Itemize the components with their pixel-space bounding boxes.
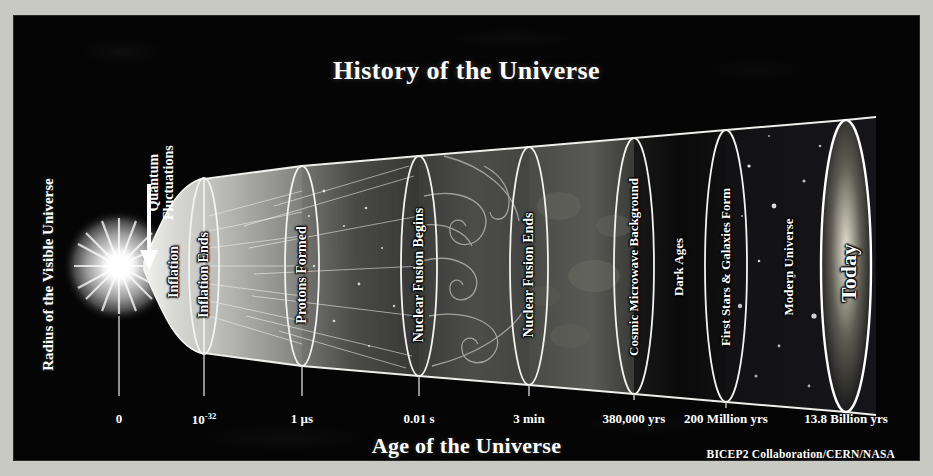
era-label-first-stars-galaxies-form: First Stars & Galaxies Form [718,142,734,392]
era-label-inflation: Inflation [166,202,182,342]
page-title: History of the Universe [14,56,919,86]
era-label-modern-universe: Modern Universe [781,192,797,342]
tick-label-200million: 200 Million yrs [684,411,768,427]
tick-label-0: 0 [116,411,123,427]
history-of-the-universe-figure: History of the Universe Age of the Unive… [0,0,933,476]
tick-label-001s: 0.01 s [403,411,434,427]
era-label-nuclear-fusion-begins: Nuclear Fusion Begins [411,165,427,385]
era-label-dark-ages: Dark Ages [671,214,687,320]
era-label-inflation-ends: Inflation Ends [196,195,212,355]
era-label-protons-formed: Protons Formed [294,185,310,365]
tick-label-1us: 1 µs [291,411,313,427]
down-arrow-icon [134,184,164,272]
tick-label-1e-32: 10-32 [192,411,216,428]
y-axis-title: Radius of the Visible Universe [40,145,57,405]
era-label-cosmic-microwave-background: Cosmic Microwave Background [626,132,642,402]
tick-label-138billion: 13.8 Billion yrs [804,411,887,427]
credit-line: BICEP2 Collaboration/CERN/NASA [707,448,895,460]
era-label-today: Today [836,223,862,323]
tick-label-3min: 3 min [513,411,544,427]
era-label-nuclear-fusion-ends: Nuclear Fusion Ends [521,170,537,380]
figure-plate: History of the Universe Age of the Unive… [14,16,919,460]
tick-label-380000yrs: 380,000 yrs [603,411,666,427]
